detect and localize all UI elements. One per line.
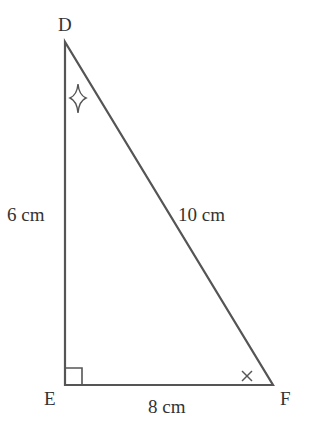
side-label-ef: 8 cm [148,396,186,417]
side-label-de: 6 cm [7,204,45,225]
side-label-df: 10 cm [178,204,225,225]
vertex-label-d: D [58,14,72,35]
vertex-label-e: E [44,388,56,409]
triangle-def [65,42,273,385]
right-angle-mark-icon [65,368,82,385]
cross-angle-mark-icon [242,371,252,381]
vertex-label-f: F [280,388,291,409]
triangle-diagram: D E F 6 cm 8 cm 10 cm [0,0,313,440]
star-angle-mark-icon [70,84,86,113]
